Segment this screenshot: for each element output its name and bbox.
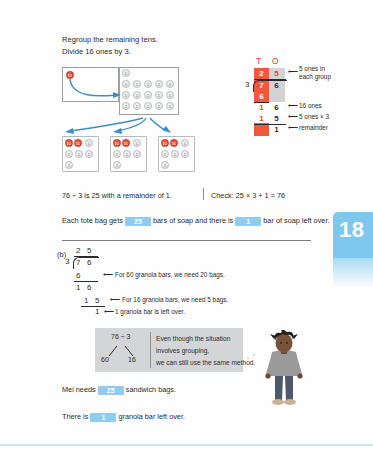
part-b-divisor: 3 [65,257,69,266]
one-disc: 1 [181,150,189,158]
one-disc: 1 [161,150,169,158]
column-header-tens: T [256,56,261,66]
dividend-tens-digit: 7 [254,81,269,90]
bottom-rule [0,444,373,446]
one-disc: 1 [144,80,152,88]
soap-prefix: Each tote bag gets [62,216,123,225]
annotation-quotient-line2: each group [299,73,331,81]
part-b-dividend-ones: 6 [87,258,91,267]
part-b-rem1-ones: 6 [87,283,91,292]
ten-disc: 10 [113,139,121,147]
annotation-arrow-icon: ⟵ [110,296,119,304]
part-b-note-3: 1 granola bar is left over. [115,308,185,316]
heading-line-1: Regroup the remaining tens. [62,34,158,45]
one-disc: 1 [166,91,174,99]
summary-divider [203,188,204,200]
branch-left-value: 60 [101,356,109,363]
one-disc: 1 [144,91,152,99]
soap-middle: bars of soap and there is [153,216,233,225]
part-b-subtract-rule-1 [74,281,98,282]
part-b-note-1: For 60 granola bars, we need 20 bags. [115,271,225,279]
sub2-tens-digit: 1 [254,114,269,123]
annotation-quotient-line1: 5 ones in [299,65,325,73]
annotation-arrow-icon: ⟵ [288,102,297,110]
sub2-ones-digit: 5 [269,114,284,123]
one-disc: 1 [75,150,83,158]
part-b-quotient-ones: 5 [87,246,91,255]
rem1-ones-digit: 6 [269,103,284,112]
remainder-digit: 1 [269,125,284,134]
annotation-five-times-three: 5 ones × 3 [299,113,329,121]
column-header-ones: O [272,56,279,66]
info-text-line-2: involves grouping, [156,346,209,356]
one-disc: 1 [181,139,189,147]
ten-disc: 10 [122,139,130,147]
part-b-note-2: For 16 granola bars, we need 5 bags. [122,296,228,304]
page-number: 18 [339,217,364,243]
leftover-prefix: There is [62,412,88,421]
divisor-digit: 3 [245,80,249,89]
one-disc: 1 [133,80,141,88]
info-panel-divider [150,332,151,368]
soap-answer-1[interactable]: 25 [125,217,151,226]
section-divider [62,240,311,241]
one-disc: 1 [122,102,130,110]
info-text-line-3: we can still use the same method. [156,358,255,368]
dividend-ones-digit: 6 [269,81,284,90]
one-disc: 1 [122,80,130,88]
annotation-arrow-icon: ⟵ [104,308,113,316]
one-disc: 1 [144,102,152,110]
one-disc: 1 [155,80,163,88]
part-b-sub2-ones: 5 [95,296,99,305]
one-disc: 1 [133,102,141,110]
ten-disc: 10 [170,139,178,147]
part-b-quotient-tens: 2 [76,246,80,255]
one-disc: 1 [85,139,93,147]
one-disc: 1 [171,150,179,158]
fill-in-soap-sentence: Each tote bag gets 25 bars of soap and t… [62,215,329,226]
part-b-dividend-tens: 7 [76,258,80,267]
ten-disc: 10 [161,139,169,147]
annotation-arrow-icon: ⟵ [288,124,297,132]
annotation-arrow-icon: ⟵ [288,68,297,76]
annotation-arrow-icon: ⟵ [103,271,112,279]
annotation-arrow-icon: ⟵ [288,113,297,121]
one-disc: 1 [155,102,163,110]
fill-in-bags-sentence: Mei needs 25 sandwich bags. [62,384,176,395]
one-disc: 1 [166,102,174,110]
leftover-answer[interactable]: 1 [90,413,116,422]
student-character-illustration [252,330,316,408]
one-disc: 1 [123,150,131,158]
one-disc: 1 [155,91,163,99]
one-disc: 1 [166,80,174,88]
bags-answer[interactable]: 25 [98,386,124,395]
branch-right-value: 16 [128,356,136,363]
one-disc: 1 [65,150,73,158]
fill-in-leftover-sentence: There is 1 granola bar left over. [62,411,185,422]
one-disc: 1 [122,91,130,99]
quotient-tens-digit: 2 [254,69,269,78]
one-disc: 1 [85,150,93,158]
one-disc: 1 [133,150,141,158]
info-text-line-1: Even though the situation [156,334,230,344]
summary-check: Check: 25 × 3 + 1 = 76 [211,190,285,201]
branch-expression: 76 ÷ 3 [111,333,130,340]
soap-suffix: bar of soap left over. [263,216,329,225]
ten-disc: 10 [74,139,82,147]
one-disc: 1 [122,69,130,77]
one-disc: 1 [113,150,121,158]
part-b-subtract-1: 6 [76,271,80,280]
ten-disc: 10 [65,139,73,147]
subtract-tens-digit: 6 [254,92,269,101]
annotation-remainder: remainder [299,124,328,132]
one-disc: 1 [133,139,141,147]
bags-suffix: sandwich bags. [126,385,176,394]
heading-line-2: Divide 16 ones by 3. [62,46,131,57]
one-disc: 1 [133,91,141,99]
page-tab-fade [333,258,373,288]
annotation-sixteen-ones: 16 ones [299,102,322,110]
one-disc: 1 [113,161,121,169]
summary-statement: 76 ÷ 3 is 25 with a remainder of 1. [62,190,172,201]
soap-answer-2[interactable]: 1 [235,217,261,226]
one-disc: 1 [65,161,73,169]
